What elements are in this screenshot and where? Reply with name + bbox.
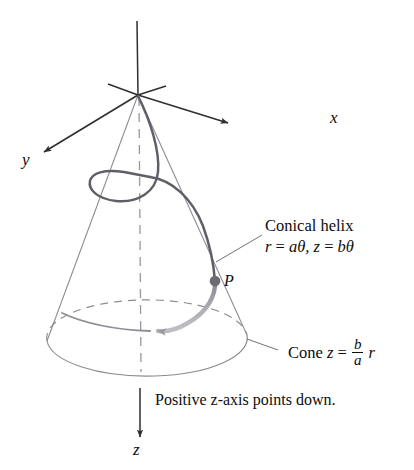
coordinate-axes [44, 21, 228, 437]
conical-helix-equation: r = aθ, z = bθ [265, 238, 354, 256]
helix-eq-z: z [314, 237, 320, 256]
x-axis-arrow [138, 95, 228, 123]
cone-fraction-b-over-a: b a [352, 337, 364, 369]
negative-z-axis-line [137, 21, 138, 95]
cone-annotation: Cone z = b a r [288, 338, 375, 370]
conical-helix-annotation: Conical helix r = aθ, z = bθ [265, 217, 354, 257]
cone-fraction-numerator: b [352, 337, 364, 353]
caption-suffix: -axis points down. [218, 391, 336, 408]
cone-outline [47, 95, 248, 376]
z-axis-label: z [133, 440, 140, 459]
helix-right-sweep [150, 177, 215, 281]
helix-eq-r: r [265, 237, 271, 256]
helix-base-tail [62, 313, 150, 331]
point-p-marker [210, 276, 221, 287]
cone-left-slant [47, 95, 138, 341]
y-axis-arrow [44, 95, 138, 152]
cone-r: r [369, 343, 375, 362]
caption-z-italic: z [211, 391, 218, 408]
helix-eq-a-theta: aθ, [289, 237, 309, 256]
helix-upper-loop [90, 96, 159, 201]
cone-word: Cone [288, 343, 323, 362]
conical-helix-title: Conical helix [265, 217, 354, 235]
cone-fraction-denominator: a [352, 353, 364, 368]
y-axis-back-stub [138, 86, 166, 95]
cone-base-front-arc [47, 335, 247, 376]
z-axis-caption: Positive z-axis points down. [155, 391, 335, 409]
cone-right-slant [138, 95, 247, 335]
helix-eq-b-theta: bθ [338, 237, 354, 256]
cone-z: z [327, 343, 333, 362]
x-axis-back-stub [108, 84, 138, 95]
cone-label-leader-line [247, 339, 278, 350]
y-axis-label: y [22, 150, 30, 169]
helix-fading-sweep [158, 281, 215, 331]
helix-eq-equals-2: = [324, 237, 333, 256]
cone-base-back-arc [47, 300, 247, 341]
cone-equals: = [338, 343, 347, 362]
helix-label-leader-line [216, 235, 262, 262]
x-axis-label: x [330, 108, 338, 127]
point-p-label: P [224, 272, 234, 290]
caption-prefix: Positive [155, 391, 211, 408]
helix-eq-equals-1: = [276, 237, 285, 256]
